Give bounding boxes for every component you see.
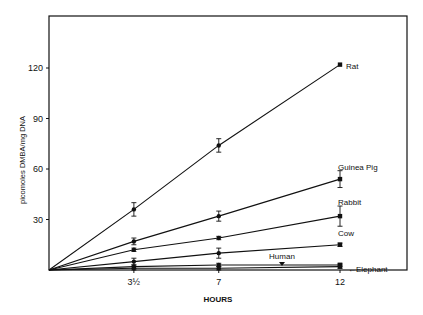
series-label: Rabbit xyxy=(338,198,362,207)
data-point xyxy=(217,236,221,240)
x-axis-label: HOURS xyxy=(204,295,234,304)
data-point xyxy=(217,266,221,270)
y-tick-label: 120 xyxy=(28,63,43,73)
data-point xyxy=(338,62,342,66)
series-label: Cow xyxy=(338,229,354,238)
x-tick-label: 7 xyxy=(216,277,221,287)
data-point xyxy=(338,177,342,181)
y-tick-label: 90 xyxy=(33,114,43,124)
data-point xyxy=(132,259,136,263)
y-tick-label: 60 xyxy=(33,164,43,174)
data-point xyxy=(338,264,342,268)
x-tick-label: 3½ xyxy=(128,277,141,287)
y-axis-label: picomoles DMBA/mg DNA xyxy=(18,116,27,204)
chart: 3060901203½712HOURSpicomoles DMBA/mg DNA… xyxy=(0,0,423,315)
data-point xyxy=(217,251,221,255)
data-point xyxy=(217,143,221,147)
x-tick-label: 12 xyxy=(335,277,345,287)
series-label: Human xyxy=(269,252,295,261)
data-point xyxy=(217,214,221,218)
y-tick-label: 30 xyxy=(33,215,43,225)
data-point xyxy=(132,266,136,270)
series-cow: Cow xyxy=(49,229,354,270)
data-point xyxy=(132,239,136,243)
data-point xyxy=(132,248,136,252)
series-label: ←Elephant xyxy=(348,265,388,274)
series-rabbit: Rabbit xyxy=(49,198,362,270)
series-label: Guinea Pig xyxy=(338,163,378,172)
data-point xyxy=(338,243,342,247)
data-point xyxy=(338,214,342,218)
data-point xyxy=(132,207,136,211)
series-rat: Rat xyxy=(49,62,359,270)
series-label: Rat xyxy=(346,62,359,71)
